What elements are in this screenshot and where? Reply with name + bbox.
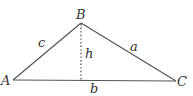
side-c <box>13 23 81 80</box>
side-label-c: c <box>38 35 46 50</box>
vertex-label-b: B <box>75 7 86 22</box>
triangle-diagram: A B C c a b h <box>0 0 193 96</box>
side-label-b: b <box>90 81 98 96</box>
vertex-label-a: A <box>0 73 10 88</box>
altitude-label-h: h <box>85 46 93 61</box>
side-label-a: a <box>130 39 138 54</box>
side-a <box>81 23 176 81</box>
vertex-label-c: C <box>177 74 187 89</box>
